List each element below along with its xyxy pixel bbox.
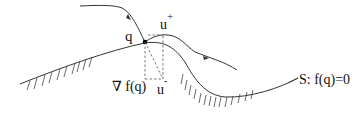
vector-decomposition [145, 35, 163, 79]
surface-label: S: f(q)=0 [299, 73, 350, 87]
surface-hatching-left [27, 57, 92, 90]
diagram-canvas: q u+ u- ∇ f(q) S: f(q)=0 [0, 0, 359, 119]
diagram-graphics [0, 0, 359, 119]
u-plus-base: u [160, 17, 167, 32]
surface-hatching-right [181, 74, 253, 107]
u-minus-base: u [157, 82, 164, 97]
u-minus-label: u- [157, 80, 167, 97]
u-plus-label: u+ [160, 14, 173, 32]
surface-label-leader [288, 78, 298, 83]
u-minus-superscript: - [164, 75, 167, 86]
outgoing-trajectory [145, 35, 237, 70]
gradient-label: ∇ f(q) [112, 80, 146, 94]
point-q-label: q [125, 29, 133, 44]
u-plus-superscript: + [167, 10, 173, 22]
incoming-trajectory [80, 5, 145, 42]
